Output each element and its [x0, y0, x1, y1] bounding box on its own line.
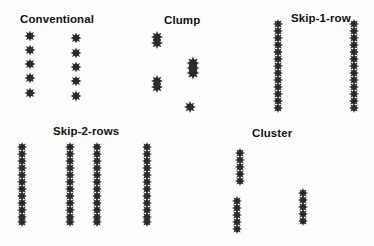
plant-center	[73, 64, 79, 70]
plant-center	[352, 22, 357, 27]
plant-center	[352, 106, 357, 111]
plant-center	[68, 194, 73, 199]
plant-center	[276, 78, 281, 83]
plant-center	[352, 71, 357, 76]
plant-center	[73, 78, 79, 84]
plant-center	[154, 84, 160, 90]
plant-row	[273, 19, 283, 113]
plant-center	[95, 173, 100, 178]
plant-row	[142, 142, 152, 227]
plant-center	[276, 99, 281, 104]
plant-center	[27, 75, 33, 81]
plant-center	[352, 57, 357, 62]
panel-skip-2-rows	[17, 142, 152, 227]
plant-center	[68, 187, 73, 192]
plant-center	[20, 180, 25, 185]
plant-center	[27, 90, 33, 96]
plant-center	[73, 93, 79, 99]
plant-center	[145, 194, 150, 199]
plant-center	[20, 194, 25, 199]
plant-row	[17, 142, 27, 227]
panel-clump	[151, 31, 200, 113]
plant-center	[95, 152, 100, 157]
plant-center	[20, 145, 25, 150]
plants-layer	[0, 0, 374, 246]
plant-row	[151, 31, 163, 49]
plant-center	[73, 50, 79, 56]
plant-center	[95, 208, 100, 213]
plant-center	[187, 104, 193, 110]
plant-center	[27, 47, 33, 53]
label-clump: Clump	[164, 14, 200, 26]
plant-center	[276, 92, 281, 97]
plant-row	[25, 31, 36, 99]
plant-center	[95, 220, 100, 225]
plant-center	[145, 145, 150, 150]
plant-center	[68, 208, 73, 213]
plant-center	[20, 152, 25, 157]
plant-center	[352, 64, 357, 69]
panel-conventional	[25, 31, 82, 102]
plant-center	[238, 179, 243, 184]
plant-center	[235, 213, 240, 218]
plant-center	[154, 40, 160, 46]
plant-center	[27, 33, 33, 39]
plant-row	[232, 196, 242, 234]
plant-center	[68, 159, 73, 164]
plant-center	[276, 36, 281, 41]
plant-center	[68, 173, 73, 178]
plant-center	[20, 173, 25, 178]
label-cluster: Cluster	[252, 127, 292, 139]
plant-center	[145, 152, 150, 157]
plant-center	[235, 220, 240, 225]
plant-row	[65, 142, 75, 227]
plant-center	[301, 212, 306, 217]
plant-center	[352, 85, 357, 90]
plant-center	[68, 152, 73, 157]
plant-row	[298, 188, 308, 226]
panel-cluster	[232, 148, 308, 234]
label-skip-1-row: Skip-1-row	[291, 12, 351, 24]
plant-row	[151, 75, 163, 93]
plant-center	[352, 99, 357, 104]
plant-center	[95, 159, 100, 164]
plant-row	[184, 101, 196, 113]
plant-center	[145, 180, 150, 185]
plant-center	[145, 187, 150, 192]
plant-center	[68, 201, 73, 206]
plant-center	[95, 187, 100, 192]
plant-center	[276, 22, 281, 27]
plant-center	[301, 205, 306, 210]
plant-center	[20, 220, 25, 225]
plant-center	[235, 227, 240, 232]
plant-center	[20, 159, 25, 164]
plant-center	[190, 70, 197, 77]
plant-row	[349, 19, 359, 113]
plant-center	[352, 36, 357, 41]
plant-center	[276, 29, 281, 34]
plant-center	[301, 198, 306, 203]
plant-center	[145, 159, 150, 164]
plant-center	[352, 43, 357, 48]
plant-center	[145, 208, 150, 213]
label-conventional: Conventional	[20, 13, 94, 25]
plant-center	[20, 208, 25, 213]
plant-center	[301, 191, 306, 196]
plant-center	[145, 220, 150, 225]
plant-center	[95, 194, 100, 199]
plant-center	[20, 201, 25, 206]
plant-center	[276, 71, 281, 76]
plant-center	[20, 187, 25, 192]
plant-center	[235, 199, 240, 204]
plant-center	[352, 29, 357, 34]
plant-row	[71, 33, 82, 102]
plant-center	[238, 158, 243, 163]
plant-center	[276, 43, 281, 48]
plant-center	[145, 201, 150, 206]
plant-center	[95, 180, 100, 185]
plant-row	[92, 142, 102, 227]
plant-center	[276, 106, 281, 111]
label-skip-2-rows: Skip-2-rows	[53, 125, 119, 137]
plant-center	[68, 220, 73, 225]
plant-center	[276, 85, 281, 90]
